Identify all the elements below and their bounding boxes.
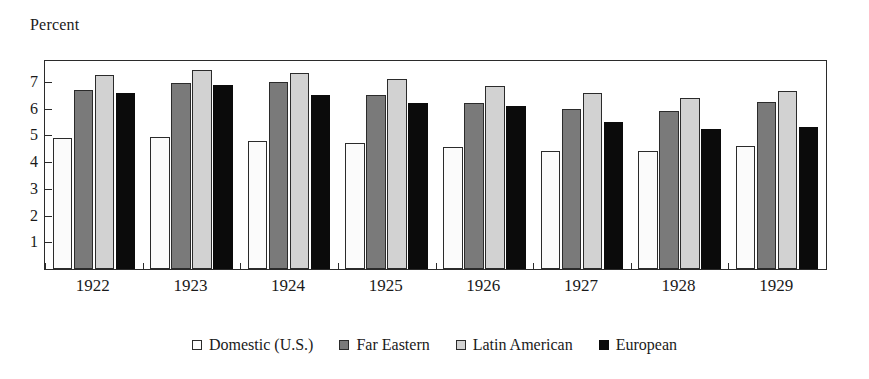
- legend-item: European: [599, 336, 677, 354]
- bar: [311, 95, 331, 269]
- bar: [485, 86, 505, 269]
- bar-group: [240, 61, 338, 269]
- x-axis-tick-mark: [240, 263, 241, 269]
- bar: [638, 151, 658, 269]
- bar: [799, 127, 819, 269]
- x-axis-tick-labels: 19221923192419251926192719281929: [44, 276, 827, 304]
- bar: [604, 122, 624, 269]
- bar: [778, 91, 798, 269]
- bar: [541, 151, 561, 269]
- bar: [583, 93, 603, 269]
- bar: [736, 146, 756, 269]
- bar: [192, 70, 212, 269]
- y-axis-tick-label: 6: [12, 101, 38, 117]
- bar: [506, 106, 526, 269]
- y-axis-tick-label: 1: [12, 234, 38, 250]
- x-axis-tick-mark: [826, 263, 827, 269]
- bar: [248, 141, 268, 269]
- bar: [562, 109, 582, 269]
- x-axis-tick-label: 1923: [173, 276, 207, 296]
- y-axis-tick-label: 7: [12, 74, 38, 90]
- legend-item: Far Eastern: [339, 336, 429, 354]
- bar: [464, 103, 484, 269]
- legend-label: European: [616, 336, 677, 354]
- bar: [150, 137, 170, 269]
- bar: [387, 79, 407, 269]
- legend-swatch-european: [599, 340, 609, 350]
- bar-group: [533, 61, 631, 269]
- legend-swatch-latin-american: [456, 340, 466, 350]
- chart-legend: Domestic (U.S.)Far EasternLatin American…: [0, 336, 869, 354]
- bar-group: [338, 61, 436, 269]
- legend-label: Far Eastern: [356, 336, 429, 354]
- bar: [443, 147, 463, 269]
- legend-item: Latin American: [456, 336, 573, 354]
- bar-group: [45, 61, 143, 269]
- bar: [345, 143, 365, 269]
- bar: [95, 75, 115, 269]
- x-axis-tick-label: 1927: [564, 276, 598, 296]
- bar: [366, 95, 386, 269]
- legend-item: Domestic (U.S.): [192, 336, 313, 354]
- plot-frame: [44, 60, 827, 270]
- bar: [659, 111, 679, 269]
- x-axis-tick-mark: [631, 263, 632, 269]
- chart-title: Percent: [30, 16, 79, 34]
- y-axis-tick-label: 5: [12, 127, 38, 143]
- x-axis-tick-mark: [533, 263, 534, 269]
- bar: [701, 129, 721, 269]
- x-axis-tick-label: 1922: [76, 276, 110, 296]
- bar-group: [143, 61, 241, 269]
- bar: [269, 82, 289, 269]
- bar-group: [728, 61, 826, 269]
- x-axis-tick-mark: [728, 263, 729, 269]
- y-axis-tick-label: 3: [12, 181, 38, 197]
- bar: [408, 103, 428, 269]
- x-axis-tick-label: 1926: [466, 276, 500, 296]
- bar: [116, 93, 136, 269]
- x-axis-tick-mark: [436, 263, 437, 269]
- bar: [53, 138, 73, 269]
- legend-swatch-domestic: [192, 340, 202, 350]
- bar: [74, 90, 94, 269]
- legend-swatch-far-eastern: [339, 340, 349, 350]
- bar-chart-figure: Percent 1234567 192219231924192519261927…: [0, 0, 869, 379]
- y-axis-tick-label: 2: [12, 208, 38, 224]
- x-axis-tick-label: 1924: [271, 276, 305, 296]
- x-axis-tick-mark: [45, 263, 46, 269]
- x-axis-tick-label: 1925: [369, 276, 403, 296]
- x-axis-tick-label: 1929: [759, 276, 793, 296]
- plot-area: [45, 61, 826, 269]
- bar: [680, 98, 700, 269]
- bar: [757, 102, 777, 269]
- legend-label: Latin American: [473, 336, 573, 354]
- x-axis-tick-label: 1928: [662, 276, 696, 296]
- bar-group: [631, 61, 729, 269]
- x-axis-tick-mark: [143, 263, 144, 269]
- y-axis-tick-label: 4: [12, 154, 38, 170]
- bar: [290, 73, 310, 270]
- bar-group: [436, 61, 534, 269]
- bar: [171, 83, 191, 269]
- x-axis-tick-mark: [338, 263, 339, 269]
- y-axis-tick-labels: 1234567: [10, 60, 38, 270]
- legend-label: Domestic (U.S.): [209, 336, 313, 354]
- bar: [213, 85, 233, 269]
